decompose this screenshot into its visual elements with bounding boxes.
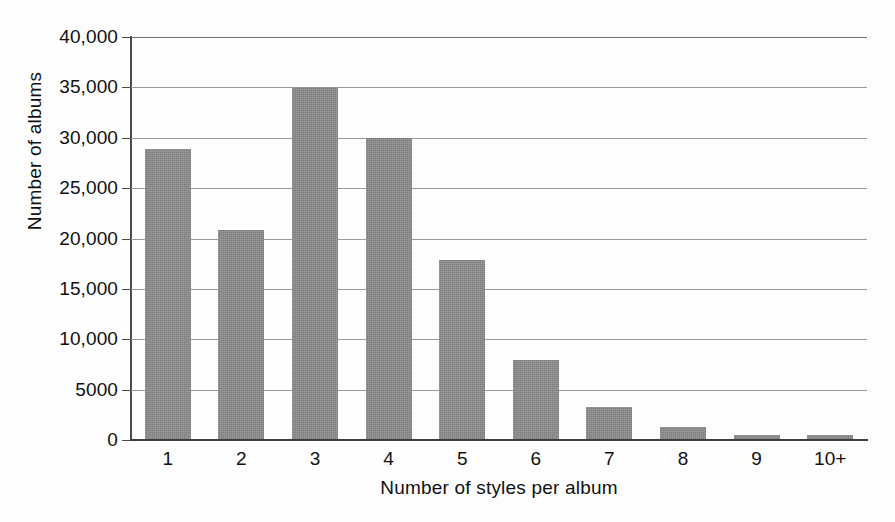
y-tick-mark xyxy=(122,339,131,340)
x-tick-label: 7 xyxy=(604,448,615,470)
y-tick-mark xyxy=(122,87,131,88)
x-tick-label: 4 xyxy=(383,448,394,470)
gridline xyxy=(131,87,867,88)
y-tick-label: 35,000 xyxy=(59,76,118,98)
x-tick-label: 8 xyxy=(678,448,689,470)
y-tick-mark xyxy=(122,138,131,139)
y-tick-label: 40,000 xyxy=(59,26,118,48)
chart-figure: Number of albums 0500010,00015,00020,000… xyxy=(0,0,895,522)
y-tick-label: 25,000 xyxy=(59,177,118,199)
bar xyxy=(734,435,780,440)
x-tick-label: 9 xyxy=(751,448,762,470)
y-tick-label: 0 xyxy=(107,429,118,451)
bar xyxy=(292,87,338,440)
y-tick-label: 10,000 xyxy=(59,328,118,350)
bar xyxy=(145,149,191,440)
y-tick-mark xyxy=(122,188,131,189)
bar xyxy=(218,230,264,440)
bar xyxy=(660,427,706,440)
bar xyxy=(366,138,412,440)
x-tick-label: 5 xyxy=(457,448,468,470)
gridline xyxy=(131,37,867,38)
y-tick-label: 30,000 xyxy=(59,127,118,149)
y-tick-mark xyxy=(122,239,131,240)
x-tick-label: 10+ xyxy=(814,448,846,470)
bar xyxy=(439,260,485,440)
x-tick-label: 2 xyxy=(236,448,247,470)
bar xyxy=(513,360,559,440)
y-tick-label: 5000 xyxy=(75,379,118,401)
bar xyxy=(807,435,853,440)
x-tick-label: 3 xyxy=(310,448,321,470)
x-tick-label: 1 xyxy=(163,448,174,470)
y-tick-label: 20,000 xyxy=(59,228,118,250)
y-tick-mark xyxy=(122,440,131,441)
plot-area: 0500010,00015,00020,00025,00030,00035,00… xyxy=(131,37,867,440)
bar xyxy=(586,407,632,440)
y-axis-title: Number of albums xyxy=(24,21,46,281)
y-tick-mark xyxy=(122,390,131,391)
x-tick-label: 6 xyxy=(531,448,542,470)
y-tick-mark xyxy=(122,289,131,290)
x-axis-title: Number of styles per album xyxy=(131,477,867,499)
gridline xyxy=(131,138,867,139)
y-tick-mark xyxy=(122,37,131,38)
y-tick-label: 15,000 xyxy=(59,278,118,300)
gridline xyxy=(131,188,867,189)
